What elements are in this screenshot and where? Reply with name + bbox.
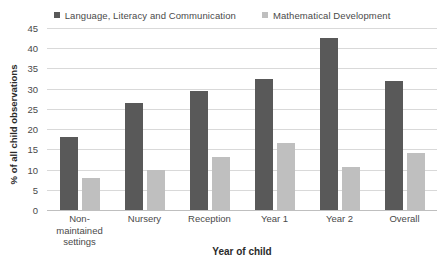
bar[interactable] bbox=[255, 79, 273, 210]
y-axis-tick-label: 45 bbox=[27, 23, 38, 34]
y-axis-title: % of all child observations bbox=[8, 50, 19, 200]
x-axis-tick-label: Non-maintained settings bbox=[47, 213, 112, 248]
bar[interactable] bbox=[147, 170, 165, 210]
y-axis-tick-label: 5 bbox=[33, 184, 38, 195]
bar-group bbox=[112, 28, 177, 210]
x-axis-tick-label: Year 2 bbox=[307, 213, 372, 225]
bar[interactable] bbox=[125, 103, 143, 210]
bar[interactable] bbox=[407, 153, 425, 210]
bar[interactable] bbox=[342, 167, 360, 210]
x-axis-tick-label: Overall bbox=[372, 213, 437, 225]
legend-entry[interactable]: Mathematical Development bbox=[262, 10, 390, 21]
y-axis-tick-label: 30 bbox=[27, 83, 38, 94]
y-axis-tick-label: 35 bbox=[27, 63, 38, 74]
bar[interactable] bbox=[277, 143, 295, 210]
y-axis-tick-label: 0 bbox=[33, 205, 38, 216]
bar[interactable] bbox=[320, 38, 338, 210]
x-axis-line bbox=[47, 210, 437, 211]
chart-legend: Language, Literacy and CommunicationMath… bbox=[0, 6, 444, 24]
y-axis-tick-label: 10 bbox=[27, 164, 38, 175]
legend-swatch-icon bbox=[262, 12, 268, 18]
bar[interactable] bbox=[385, 81, 403, 210]
y-axis-tick-label: 40 bbox=[27, 43, 38, 54]
bar[interactable] bbox=[212, 157, 230, 210]
y-axis-tick-label: 15 bbox=[27, 144, 38, 155]
bar[interactable] bbox=[82, 178, 100, 210]
bar-group bbox=[242, 28, 307, 210]
x-axis-tick-labels: Non-maintained settingsNurseryReceptionY… bbox=[47, 213, 437, 247]
legend-label: Language, Literacy and Communication bbox=[65, 10, 236, 21]
y-axis-tick-label: 20 bbox=[27, 124, 38, 135]
bar-chart: Language, Literacy and CommunicationMath… bbox=[0, 0, 444, 266]
bar[interactable] bbox=[60, 137, 78, 210]
x-axis-tick-label: Year 1 bbox=[242, 213, 307, 225]
bar-group bbox=[47, 28, 112, 210]
y-axis-tick-label: 25 bbox=[27, 103, 38, 114]
legend-entry[interactable]: Language, Literacy and Communication bbox=[54, 10, 236, 21]
bar[interactable] bbox=[190, 91, 208, 210]
bar-group bbox=[372, 28, 437, 210]
x-axis-tick-label: Reception bbox=[177, 213, 242, 225]
legend-swatch-icon bbox=[54, 12, 60, 18]
x-axis-title: Year of child bbox=[47, 246, 437, 257]
legend-label: Mathematical Development bbox=[273, 10, 390, 21]
x-axis-tick-label: Nursery bbox=[112, 213, 177, 225]
bar-group bbox=[307, 28, 372, 210]
bar-group bbox=[177, 28, 242, 210]
plot-area bbox=[47, 28, 437, 210]
